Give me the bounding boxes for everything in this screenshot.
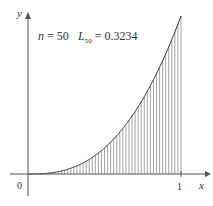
x-tick-label-0: 0 [17,180,22,191]
x-axis-label: x [198,179,204,191]
riemann-sum-plot: y x 0 1 n = 50 L50 = 0.3234 [0,0,213,206]
y-axis-label: y [16,7,22,19]
annotation-L: L50 = 0.3234 [77,29,137,45]
y-axis-arrow-icon [25,12,31,19]
chart-root: y x 0 1 n = 50 L50 = 0.3234 [0,0,213,206]
annotation-n: n = 50 [38,29,69,43]
x-tick-label-1: 1 [177,181,182,192]
x-axis-arrow-icon [205,171,211,177]
